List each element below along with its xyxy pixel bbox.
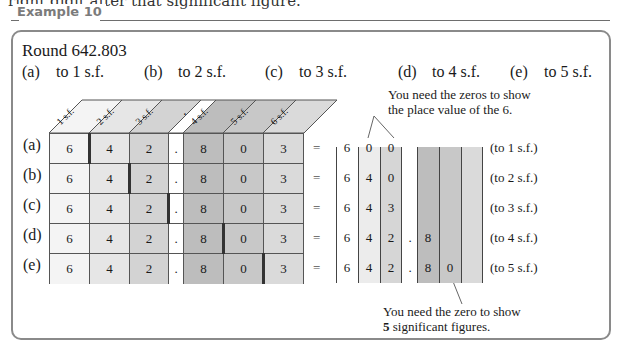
grid-cell: 8 [183, 253, 224, 284]
row-label-e: (e) [23, 256, 41, 274]
equals-sign: = [313, 230, 320, 246]
grid-cell: 0 [223, 163, 264, 194]
result-digit: 6 [336, 230, 358, 246]
grid-cell: 0 [223, 193, 264, 224]
grid-cell: 6 [49, 223, 90, 254]
annotation-line: the place value of the 6. [388, 102, 531, 117]
grid-cell: 4 [89, 223, 130, 254]
grid-cell: . [168, 193, 184, 224]
grid-cell: 2 [129, 163, 169, 194]
result-digit: 6 [336, 140, 358, 156]
grid-cell: 3 [263, 253, 304, 284]
result-digit: 4 [358, 260, 380, 276]
row-label-a: (a) [23, 136, 41, 154]
annotation-zeros-place-value: You need the zeros to show the place val… [388, 87, 531, 117]
grid-cell: . [168, 163, 184, 194]
grid-cell: . [168, 253, 184, 284]
grid-cell: 2 [129, 133, 169, 164]
row-label-d: (d) [23, 226, 42, 244]
result-digit: 4 [358, 170, 380, 186]
annotation-line: 5 significant figures. [383, 319, 521, 334]
result-digit: 8 [417, 260, 439, 276]
result-digit: 6 [336, 200, 358, 216]
equals-sign: = [313, 170, 320, 186]
result-note-d: (to 4 s.f.) [490, 230, 538, 246]
grid-cell: 4 [89, 163, 130, 194]
leader-line [368, 116, 374, 138]
equals-sign: = [313, 140, 320, 156]
result-digit: 6 [336, 260, 358, 276]
result-digit: 4 [358, 200, 380, 216]
grid-cell: 2 [129, 223, 169, 254]
grid-cell: 0 [223, 253, 264, 284]
equals-sign: = [313, 200, 320, 216]
grid-cell: . [168, 223, 184, 254]
cut-marker-b [128, 163, 131, 194]
result-digit: 8 [417, 230, 439, 246]
annotation-zero-sig-figs: You need the zero to show 5 significant … [383, 304, 521, 334]
grid-cell: 4 [89, 133, 130, 164]
result-note-e: (to 5 s.f.) [490, 260, 538, 276]
grid-cell: 8 [183, 193, 224, 224]
equals-sign: = [313, 260, 320, 276]
grid-cell: 0 [223, 223, 264, 254]
grid-cell: 3 [263, 163, 304, 194]
grid-cell: 3 [263, 133, 304, 164]
annotation-line: You need the zero to show [383, 304, 521, 319]
grid-cell: 6 [49, 193, 90, 224]
result-digit: 0 [380, 140, 402, 156]
result-digit: 0 [380, 170, 402, 186]
grid-cell: 4 [89, 253, 130, 284]
grid-cell: 8 [183, 133, 224, 164]
annotation-text: significant figures. [390, 319, 491, 334]
annotation-line: You need the zeros to show [388, 87, 531, 102]
grid-cell: 6 [49, 253, 90, 284]
result-digit: 0 [439, 260, 461, 276]
result-digit: 6 [336, 170, 358, 186]
result-note-b: (to 2 s.f.) [490, 170, 538, 186]
grid-cell: 2 [129, 193, 169, 224]
grid-cell: 3 [263, 223, 304, 254]
grid-cell: 2 [129, 253, 169, 284]
leader-line [374, 116, 394, 138]
grid-cell: 6 [49, 133, 90, 164]
cut-marker-d [222, 223, 225, 254]
grid-cell: 8 [183, 163, 224, 194]
result-note-a: (to 1 s.f.) [490, 140, 538, 156]
grid-cell: 4 [89, 193, 130, 224]
result-col [461, 147, 483, 283]
cut-marker-e [262, 253, 265, 284]
result-digit: 4 [358, 230, 380, 246]
result-digit: 3 [380, 200, 402, 216]
grid-cell: 3 [263, 193, 304, 224]
grid-cell: . [168, 133, 184, 164]
cut-marker-a [88, 133, 91, 164]
grid-cell: 0 [223, 133, 264, 164]
grid-cell: 6 [49, 163, 90, 194]
result-digit: 0 [358, 140, 380, 156]
row-label-c: (c) [23, 196, 41, 214]
grid-cell: 8 [183, 223, 224, 254]
cut-marker-c [167, 193, 170, 224]
result-note-c: (to 3 s.f.) [490, 200, 538, 216]
row-label-b: (b) [23, 166, 42, 184]
